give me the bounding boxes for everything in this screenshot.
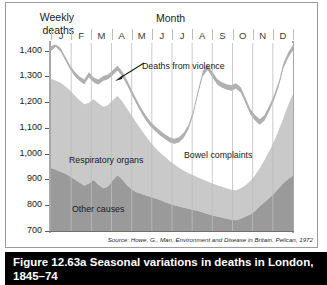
plot-area [51,43,293,231]
area-label-other-causes: Other causes [72,204,124,214]
y-tick-label: 1,400 [6,45,42,55]
month-tick-mark [212,29,213,40]
month-tick-mark [51,29,52,40]
figure-number: Figure 12.63a [13,256,87,268]
month-label-f-1: F [71,30,91,41]
y-tick-label: 1,300 [6,70,42,80]
month-tick-mark [91,29,92,40]
y-tick-label: 1,000 [6,148,42,158]
month-tick-mark [293,29,294,40]
y-tick-label: 900 [6,173,42,183]
month-tick-mark [71,29,72,40]
month-label-j-0: J [51,30,71,41]
area-chart-svg [51,43,293,231]
annotation-deaths-from-violence: Deaths from violence [142,61,225,71]
month-tick-mark [233,29,234,40]
figure-root: Weekly deaths Month 7008009001,0001,1001… [0,0,327,285]
month-tick-mark [152,29,153,40]
month-label-o-9: O [233,30,253,41]
month-label-j-6: J [172,30,192,41]
month-label-s-8: S [212,30,232,41]
source-credit: Source: Howe, G., Man, Environment and D… [6,236,313,243]
month-tick-mark [112,29,113,40]
month-tick-mark [273,29,274,40]
x-axis-line [49,231,294,232]
month-label-m-4: M [132,30,152,41]
figure-caption-bar: Figure 12.63a Seasonal variations in dea… [5,252,327,285]
month-tick-mark [192,29,193,40]
month-label-d-11: D [273,30,293,41]
month-tick-mark [253,29,254,40]
y-tick-label: 700 [6,225,42,235]
chart-panel: Weekly deaths Month 7008009001,0001,1001… [5,2,318,248]
month-label-m-2: M [91,30,111,41]
y-tick-label: 800 [6,199,42,209]
month-tick-mark [132,29,133,40]
month-label-a-7: A [192,30,212,41]
y-tick-label: 1,200 [6,96,42,106]
area-label-respiratory-organs: Respiratory organs [69,155,143,165]
month-tick-mark [172,29,173,40]
area-label-bowel-complaints: Bowel complaints [184,150,252,160]
month-label-j-5: J [152,30,172,41]
x-axis-title: Month [156,12,185,24]
y-tick-label: 1,100 [6,122,42,132]
month-label-a-3: A [112,30,132,41]
month-label-n-10: N [253,30,273,41]
